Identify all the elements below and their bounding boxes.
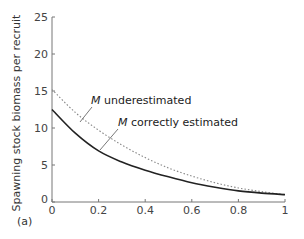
x-tick-label: 0.4	[136, 204, 154, 217]
y-tick-label: 20	[34, 48, 48, 61]
x-tick-label: 0	[49, 204, 56, 217]
annotation-m-correctly-estimated: M correctly estimated	[118, 116, 238, 129]
y-tick-label: 15	[34, 85, 48, 98]
x-tick-label: 0.6	[183, 204, 201, 217]
panel-label: (a)	[17, 215, 32, 228]
x-tick-label: 0.2	[90, 204, 108, 217]
annotation-m-underestimated: M underestimated	[91, 94, 191, 107]
chart-area: 051015202500.20.40.60.81 M underestimate…	[0, 0, 304, 239]
ticks: 051015202500.20.40.60.81	[34, 11, 289, 217]
y-tick-label: 0	[41, 193, 48, 206]
y-tick-label: 10	[34, 122, 48, 135]
y-tick-label: 25	[34, 11, 48, 24]
y-axis-label: Spawning stock biomass per recruit	[10, 14, 23, 211]
annotation-leader-line	[100, 129, 118, 150]
x-tick-label: 1	[282, 204, 289, 217]
axes	[52, 17, 285, 202]
x-tick-label: 0.8	[230, 204, 248, 217]
annotation-leader-line	[80, 107, 92, 122]
y-tick-label: 5	[41, 159, 48, 172]
annotations: M underestimatedM correctly estimated	[80, 94, 238, 150]
